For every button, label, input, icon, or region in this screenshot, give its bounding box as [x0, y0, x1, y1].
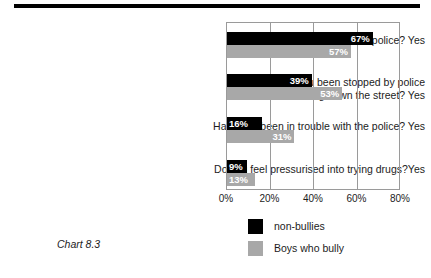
legend-label: Boys who bully [274, 242, 344, 254]
bar-value-label: 31% [272, 132, 294, 142]
bar-value-label: 13% [227, 175, 248, 185]
legend-swatch-icon [248, 241, 263, 256]
bar-boys-who-bully-0: 57% [227, 45, 351, 58]
bar-value-label: 53% [320, 89, 342, 99]
bar-boys-who-bully-3: 13% [227, 173, 255, 186]
bar-non-bullies-1: 39% [227, 74, 312, 87]
legend-item-non-bullies: non-bullies [248, 215, 344, 237]
bar-group-1: 39% 53% [227, 74, 401, 116]
bar-value-label: 57% [329, 47, 351, 57]
x-tick-label-80: 80% [390, 193, 410, 204]
bar-boys-who-bully-1: 53% [227, 87, 342, 100]
x-tick-label-60: 60% [346, 193, 366, 204]
chart-legend: non-bullies Boys who bully [248, 215, 344, 259]
bar-boys-who-bully-2: 31% [227, 130, 294, 143]
bar-chart: Do you respect and trust the police? Yes… [0, 0, 431, 278]
bar-non-bullies-2: 16% [227, 117, 262, 130]
bar-value-label: 67% [351, 34, 373, 44]
legend-item-boys-who-bully: Boys who bully [248, 237, 344, 259]
bar-group-0: 67% 57% [227, 32, 401, 74]
bar-value-label: 9% [227, 162, 243, 172]
bar-non-bullies-3: 9% [227, 160, 247, 173]
x-tick-label-40: 40% [303, 193, 323, 204]
x-tick-label-0: 0% [219, 193, 233, 204]
bar-non-bullies-0: 67% [227, 32, 373, 45]
legend-label: non-bullies [274, 220, 325, 232]
chart-caption: Chart 8.3 [57, 238, 100, 250]
plot-area: 67% 57% 39% 53% [226, 22, 400, 190]
bar-value-label: 16% [227, 119, 248, 129]
bar-value-label: 39% [290, 76, 312, 86]
x-tick-label-20: 20% [259, 193, 279, 204]
legend-swatch-icon [248, 219, 263, 234]
bar-group-2: 16% 31% [227, 117, 401, 159]
